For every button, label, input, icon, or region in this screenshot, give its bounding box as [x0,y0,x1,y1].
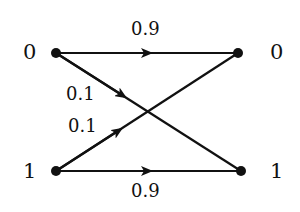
input-node-1 [51,166,61,176]
edge-label-1-to-0: 0.1 [68,117,97,135]
input-label-0: 0 [23,42,36,63]
output-label-1: 1 [270,161,283,182]
edge-label-0-to-0: 0.9 [131,20,160,38]
output-label-0: 0 [270,42,283,63]
input-node-0 [51,48,61,58]
bsc-diagram: 0 1 0 1 0.9 0.1 0.1 0.9 [0,0,300,212]
input-label-1: 1 [23,161,36,182]
edge-label-0-to-1: 0.1 [66,85,95,103]
edge-label-1-to-1: 0.9 [131,182,160,200]
output-node-1 [236,166,246,176]
output-node-0 [233,48,243,58]
